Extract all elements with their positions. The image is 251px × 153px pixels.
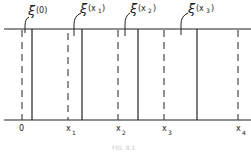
xi-label-x2: ξ (x 2 ) [129, 1, 156, 16]
svg-text:(x: (x [196, 4, 204, 13]
svg-text:ξ: ξ [79, 1, 88, 16]
svg-text:(0): (0) [36, 6, 47, 15]
svg-text:3: 3 [206, 7, 210, 14]
svg-text:4: 4 [242, 129, 246, 136]
leader-xi-x3 [181, 13, 188, 35]
svg-text:): ) [153, 4, 156, 13]
svg-text:3: 3 [168, 129, 172, 136]
svg-text:0: 0 [19, 124, 24, 133]
svg-text:): ) [102, 4, 105, 13]
svg-text:1: 1 [72, 129, 76, 136]
svg-text:ξ: ξ [187, 1, 196, 16]
svg-text:x: x [162, 124, 167, 133]
interval-partition-diagram: ξ (0) ξ (x 1 ) ξ (x 2 ) ξ (x 3 ) 0 x 1 x… [0, 0, 251, 153]
svg-text:): ) [211, 4, 214, 13]
leader-xi-0 [25, 17, 29, 33]
axis-label-0: 0 [19, 124, 24, 133]
svg-text:(x: (x [138, 4, 146, 13]
figure-caption: FIG. 8.1 [112, 144, 135, 151]
svg-text:x: x [66, 124, 71, 133]
axis-label-x1: x 1 [66, 124, 76, 136]
svg-text:2: 2 [148, 7, 152, 14]
xi-label-0: ξ (0) [27, 3, 47, 18]
svg-text:x: x [116, 124, 121, 133]
xi-label-x3: ξ (x 3 ) [187, 1, 214, 16]
leader-xi-x2 [125, 13, 130, 36]
svg-text:x: x [236, 124, 241, 133]
svg-text:ξ: ξ [27, 3, 36, 18]
svg-text:ξ: ξ [129, 1, 138, 16]
axis-label-x2: x 2 [116, 124, 126, 136]
xi-label-x1: ξ (x 1 ) [79, 1, 105, 16]
svg-text:(x: (x [88, 4, 96, 13]
svg-text:2: 2 [122, 129, 126, 136]
leader-xi-x1 [74, 13, 81, 36]
axis-label-x3: x 3 [162, 124, 172, 136]
axis-label-x4: x 4 [236, 124, 246, 136]
